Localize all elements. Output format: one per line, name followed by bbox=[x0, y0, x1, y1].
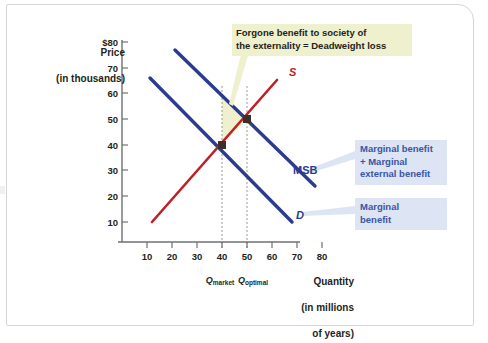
x-tick-label-40: 40 bbox=[210, 251, 234, 262]
marker-q-market bbox=[218, 141, 226, 149]
y-tick-label-30: 30 bbox=[94, 165, 118, 176]
q-optimal-label: Qoptimal bbox=[225, 265, 271, 295]
y-tick-label-50: 50 bbox=[94, 114, 118, 125]
y-tick-label-70: 70 bbox=[94, 63, 118, 74]
y-tick-label-10: 10 bbox=[94, 217, 118, 228]
curve-label-supply: S bbox=[289, 66, 296, 78]
marker-q-optimal bbox=[243, 115, 251, 123]
q-market-letter: Q bbox=[206, 275, 213, 285]
x-axis-title-line3: of years) bbox=[312, 328, 354, 339]
x-tick-label-70: 70 bbox=[285, 251, 309, 262]
y-tick-label-80: $80 bbox=[94, 37, 118, 48]
y-tick-label-40: 40 bbox=[94, 140, 118, 151]
x-tick-label-50: 50 bbox=[235, 251, 259, 262]
x-axis-title-line2: (in millions bbox=[301, 302, 354, 313]
x-tick-label-10: 10 bbox=[135, 251, 159, 262]
curve-label-msb: MSB bbox=[293, 164, 317, 176]
x-axis-title: Quantity (in millions of years) bbox=[276, 262, 354, 343]
callout-leader-mb bbox=[302, 206, 355, 216]
y-axis-title-line2: (in thousands) bbox=[56, 73, 125, 84]
x-tick-label-20: 20 bbox=[160, 251, 184, 262]
x-tick-label-80: 80 bbox=[310, 251, 334, 262]
x-tick-label-60: 60 bbox=[260, 251, 284, 262]
q-optimal-letter: Q bbox=[238, 275, 245, 285]
x-axis-ticks bbox=[147, 242, 322, 248]
y-tick-label-60: 60 bbox=[94, 88, 118, 99]
callout-marginal-social-benefit: Marginal benefit + Marginal external ben… bbox=[355, 140, 447, 185]
x-axis-title-line1: Quantity bbox=[313, 276, 354, 287]
curve-label-demand: D bbox=[296, 209, 304, 221]
q-optimal-subscript: optimal bbox=[245, 279, 268, 286]
callout-deadweight-loss: Forgone benefit to society of the extern… bbox=[232, 24, 412, 56]
x-tick-label-30: 30 bbox=[185, 251, 209, 262]
y-axis-title-line1: Price bbox=[101, 47, 125, 58]
callout-marginal-benefit: Marginal benefit bbox=[355, 198, 447, 230]
y-tick-label-20: 20 bbox=[94, 191, 118, 202]
